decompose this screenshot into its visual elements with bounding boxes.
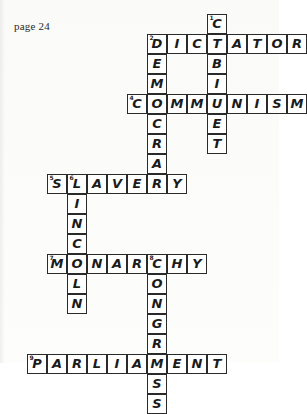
- crossword-letter: N: [148, 295, 166, 313]
- crossword-cell[interactable]: N: [147, 294, 167, 314]
- crossword-cell[interactable]: M: [287, 94, 307, 114]
- crossword-cell[interactable]: N: [67, 214, 87, 234]
- crossword-cell[interactable]: M: [187, 94, 207, 114]
- crossword-cell[interactable]: S: [147, 374, 167, 394]
- crossword-cell[interactable]: R: [67, 354, 87, 374]
- crossword-letter: O: [268, 35, 286, 53]
- crossword-cell[interactable]: R: [147, 334, 167, 354]
- crossword-cell[interactable]: I: [67, 194, 87, 214]
- crossword-cell[interactable]: I: [207, 74, 227, 94]
- crossword-letter: E: [208, 115, 226, 133]
- crossword-cell[interactable]: A: [147, 154, 167, 174]
- crossword-letter: M: [48, 255, 66, 273]
- crossword-letter: E: [148, 55, 166, 73]
- crossword-letter: N: [88, 255, 106, 273]
- crossword-cell[interactable]: C: [67, 234, 87, 254]
- crossword-cell[interactable]: 5S: [47, 174, 67, 194]
- crossword-cell[interactable]: 4C: [127, 94, 147, 114]
- crossword-letter: I: [108, 355, 126, 373]
- crossword-cell[interactable]: A: [127, 354, 147, 374]
- crossword-cell[interactable]: A: [107, 254, 127, 274]
- crossword-cell[interactable]: C: [147, 114, 167, 134]
- crossword-cell[interactable]: E: [127, 174, 147, 194]
- crossword-letter: D: [148, 35, 166, 53]
- crossword-cell[interactable]: R: [147, 134, 167, 154]
- crossword-cell[interactable]: M: [167, 94, 187, 114]
- crossword-letter: M: [148, 355, 166, 373]
- crossword-cell[interactable]: R: [147, 174, 167, 194]
- crossword-letter: P: [28, 355, 46, 373]
- crossword-letter: S: [148, 395, 166, 413]
- crossword-letter: R: [128, 255, 146, 273]
- crossword-cell[interactable]: O: [147, 274, 167, 294]
- crossword-letter: C: [188, 35, 206, 53]
- crossword-letter: A: [228, 35, 246, 53]
- crossword-cell[interactable]: H: [167, 254, 187, 274]
- crossword-cell[interactable]: N: [187, 354, 207, 374]
- crossword-letter: R: [148, 175, 166, 193]
- crossword-cell[interactable]: E: [167, 354, 187, 374]
- crossword-letter: L: [88, 355, 106, 373]
- crossword-cell[interactable]: O: [67, 254, 87, 274]
- crossword-letter: C: [208, 15, 226, 33]
- crossword-letter: R: [288, 35, 306, 53]
- crossword-cell[interactable]: I: [107, 354, 127, 374]
- crossword-cell[interactable]: Y: [187, 254, 207, 274]
- crossword-cell[interactable]: 8C: [147, 254, 167, 274]
- crossword-letter: R: [68, 355, 86, 373]
- crossword-cell[interactable]: U: [207, 94, 227, 114]
- crossword-cell[interactable]: T: [207, 354, 227, 374]
- crossword-cell[interactable]: A: [47, 354, 67, 374]
- crossword-cell[interactable]: R: [127, 254, 147, 274]
- crossword-letter: C: [148, 255, 166, 273]
- crossword-cell[interactable]: I: [167, 34, 187, 54]
- crossword-letter: N: [188, 355, 206, 373]
- crossword-letter: M: [188, 95, 206, 113]
- crossword-letter: A: [108, 255, 126, 273]
- crossword-letter: S: [48, 175, 66, 193]
- crossword-cell[interactable]: 9P: [27, 354, 47, 374]
- crossword-cell[interactable]: A: [227, 34, 247, 54]
- crossword-cell[interactable]: A: [87, 174, 107, 194]
- crossword-cell[interactable]: T: [247, 34, 267, 54]
- crossword-cell[interactable]: 1C: [207, 14, 227, 34]
- crossword-cell[interactable]: S: [267, 94, 287, 114]
- crossword-letter: C: [68, 235, 86, 253]
- crossword-letter: U: [208, 95, 226, 113]
- crossword-cell[interactable]: T: [207, 34, 227, 54]
- crossword-cell[interactable]: V: [107, 174, 127, 194]
- crossword-cell[interactable]: O: [147, 94, 167, 114]
- crossword-letter: O: [148, 275, 166, 293]
- crossword-cell[interactable]: L: [67, 274, 87, 294]
- crossword-letter: C: [148, 115, 166, 133]
- crossword-cell[interactable]: R: [287, 34, 307, 54]
- crossword-cell[interactable]: G: [147, 314, 167, 334]
- crossword-cell[interactable]: C: [187, 34, 207, 54]
- crossword-cell[interactable]: T: [207, 134, 227, 154]
- crossword-cell[interactable]: N: [87, 254, 107, 274]
- crossword-cell[interactable]: N: [67, 294, 87, 314]
- crossword-cell[interactable]: O: [267, 34, 287, 54]
- crossword-letter: I: [168, 35, 186, 53]
- crossword-cell[interactable]: M: [147, 354, 167, 374]
- crossword-letter: O: [68, 255, 86, 273]
- crossword-cell[interactable]: 7M: [47, 254, 67, 274]
- crossword-cell[interactable]: E: [147, 54, 167, 74]
- crossword-cell[interactable]: 2D: [147, 34, 167, 54]
- crossword-cell[interactable]: I: [247, 94, 267, 114]
- crossword-cell[interactable]: B: [207, 54, 227, 74]
- crossword-letter: B: [208, 55, 226, 73]
- crossword-letter: N: [68, 215, 86, 233]
- crossword-letter: N: [228, 95, 246, 113]
- crossword-cell[interactable]: Y: [167, 174, 187, 194]
- crossword-cell[interactable]: 6L: [67, 174, 87, 194]
- crossword-letter: C: [128, 95, 146, 113]
- crossword-cell[interactable]: S: [147, 394, 167, 414]
- crossword-cell[interactable]: M: [147, 74, 167, 94]
- crossword-cell[interactable]: L: [87, 354, 107, 374]
- crossword-cell[interactable]: N: [227, 94, 247, 114]
- crossword-cell[interactable]: E: [207, 114, 227, 134]
- crossword-letter: L: [68, 175, 86, 193]
- crossword-letter: T: [208, 135, 226, 153]
